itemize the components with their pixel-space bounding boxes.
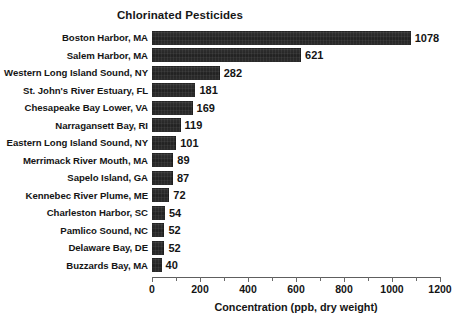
category-label-row: Sapelo Island, GA bbox=[0, 169, 148, 187]
bar bbox=[152, 118, 181, 132]
bar bbox=[152, 223, 164, 237]
category-label-row: Chesapeake Bay Lower, VA bbox=[0, 99, 148, 117]
x-axis-title: Concentration (ppb, dry weight) bbox=[152, 301, 440, 313]
category-label-row: Kennebec River Plume, ME bbox=[0, 187, 148, 205]
x-axis-minor-tick bbox=[368, 277, 369, 281]
bar bbox=[152, 188, 169, 202]
bar-value-label: 119 bbox=[181, 118, 203, 132]
x-axis-major-tick bbox=[248, 277, 249, 282]
bar-value-label: 89 bbox=[173, 153, 189, 167]
bar-value-label: 101 bbox=[176, 136, 198, 150]
bar bbox=[152, 83, 195, 97]
category-label: Pamlico Sound, NC bbox=[60, 225, 148, 236]
table-row: 40 bbox=[152, 257, 440, 275]
table-row: 101 bbox=[152, 134, 440, 152]
bar bbox=[152, 31, 411, 45]
x-axis-minor-tick bbox=[320, 277, 321, 281]
bar-value-label: 52 bbox=[164, 241, 180, 255]
category-label: Salem Harbor, MA bbox=[67, 50, 148, 61]
bar bbox=[152, 258, 162, 272]
bar-value-label: 54 bbox=[165, 206, 181, 220]
bar-value-label: 52 bbox=[164, 223, 180, 237]
x-axis-tick-label: 0 bbox=[149, 283, 155, 295]
category-label: Eastern Long Island Sound, NY bbox=[7, 137, 148, 148]
table-row: 1078 bbox=[152, 29, 440, 47]
table-row: 87 bbox=[152, 169, 440, 187]
plot-area: 107862128218116911910189877254525240 bbox=[152, 29, 440, 277]
table-row: 72 bbox=[152, 187, 440, 205]
bar bbox=[152, 171, 173, 185]
category-label: Boston Harbor, MA bbox=[62, 32, 148, 43]
table-row: 181 bbox=[152, 82, 440, 100]
table-row: 54 bbox=[152, 204, 440, 222]
table-row: 169 bbox=[152, 99, 440, 117]
bar bbox=[152, 136, 176, 150]
x-axis-tick-label: 600 bbox=[287, 283, 305, 295]
x-axis-major-tick bbox=[440, 277, 441, 282]
table-row: 52 bbox=[152, 222, 440, 240]
bar-value-label: 40 bbox=[162, 258, 178, 272]
bar bbox=[152, 66, 220, 80]
category-label-row: St. John's River Estuary, FL bbox=[0, 82, 148, 100]
bar-value-label: 1078 bbox=[411, 31, 439, 45]
x-axis-major-tick bbox=[152, 277, 153, 282]
category-axis-labels: Boston Harbor, MASalem Harbor, MAWestern… bbox=[0, 29, 148, 274]
x-axis-minor-tick bbox=[224, 277, 225, 281]
bar-value-label: 72 bbox=[169, 188, 185, 202]
category-label: Delaware Bay, DE bbox=[68, 242, 148, 253]
category-label: Chesapeake Bay Lower, VA bbox=[25, 102, 148, 113]
x-axis-major-tick bbox=[392, 277, 393, 282]
x-axis-tick-label: 1200 bbox=[428, 283, 451, 295]
table-row: 621 bbox=[152, 47, 440, 65]
bar-value-label: 181 bbox=[195, 83, 217, 97]
category-label-row: Delaware Bay, DE bbox=[0, 239, 148, 257]
x-axis-major-tick bbox=[296, 277, 297, 282]
category-label-row: Boston Harbor, MA bbox=[0, 29, 148, 47]
bar bbox=[152, 206, 165, 220]
x-axis-minor-tick bbox=[176, 277, 177, 281]
bar-value-label: 282 bbox=[220, 66, 242, 80]
bar-value-label: 169 bbox=[193, 101, 215, 115]
x-axis-major-tick bbox=[200, 277, 201, 282]
x-axis-tick-label: 200 bbox=[191, 283, 209, 295]
category-label-row: Pamlico Sound, NC bbox=[0, 222, 148, 240]
x-axis-minor-tick bbox=[416, 277, 417, 281]
category-label-row: Buzzards Bay, MA bbox=[0, 257, 148, 275]
bar-value-label: 87 bbox=[173, 171, 189, 185]
x-axis-tick-label: 1000 bbox=[380, 283, 403, 295]
bar bbox=[152, 153, 173, 167]
category-label-row: Western Long Island Sound, NY bbox=[0, 64, 148, 82]
bar bbox=[152, 101, 193, 115]
table-row: 52 bbox=[152, 239, 440, 257]
category-label: Narragansett Bay, RI bbox=[55, 120, 148, 131]
category-label: Kennebec River Plume, ME bbox=[26, 190, 149, 201]
bar bbox=[152, 48, 301, 62]
category-label-row: Salem Harbor, MA bbox=[0, 47, 148, 65]
bar bbox=[152, 241, 164, 255]
category-label: Buzzards Bay, MA bbox=[66, 260, 148, 271]
table-row: 282 bbox=[152, 64, 440, 82]
category-label: Charleston Harbor, SC bbox=[47, 207, 148, 218]
bar-value-label: 621 bbox=[301, 48, 323, 62]
table-row: 119 bbox=[152, 117, 440, 135]
category-label: St. John's River Estuary, FL bbox=[23, 85, 148, 96]
category-label-row: Charleston Harbor, SC bbox=[0, 204, 148, 222]
chart-figure: Chlorinated Pesticides Boston Harbor, MA… bbox=[0, 0, 466, 324]
x-axis-minor-tick bbox=[272, 277, 273, 281]
category-label-row: Eastern Long Island Sound, NY bbox=[0, 134, 148, 152]
category-label-row: Merrimack River Mouth, MA bbox=[0, 152, 148, 170]
category-label-row: Narragansett Bay, RI bbox=[0, 117, 148, 135]
chart-title: Chlorinated Pesticides bbox=[0, 9, 466, 21]
category-label: Western Long Island Sound, NY bbox=[4, 67, 148, 78]
x-axis-tick-label: 800 bbox=[335, 283, 353, 295]
x-axis-tick-label: 400 bbox=[239, 283, 257, 295]
table-row: 89 bbox=[152, 152, 440, 170]
category-label: Sapelo Island, GA bbox=[67, 172, 148, 183]
category-label: Merrimack River Mouth, MA bbox=[23, 155, 148, 166]
x-axis-major-tick bbox=[344, 277, 345, 282]
bar-rows: 107862128218116911910189877254525240 bbox=[152, 29, 440, 274]
